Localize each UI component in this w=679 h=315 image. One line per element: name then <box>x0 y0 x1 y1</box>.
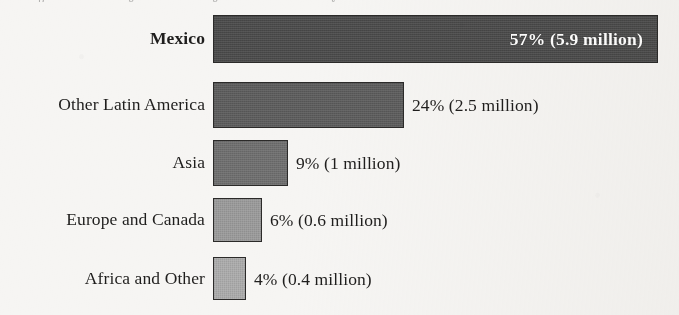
bar-value-label: 9% (1 million) <box>296 153 400 174</box>
bar-rect <box>213 257 246 300</box>
bar-halftone-texture <box>214 199 261 241</box>
bar-category-label: Asia <box>0 154 205 172</box>
bar-row: Other Latin America24% (2.5 million) <box>0 82 679 128</box>
bar-row: Asia9% (1 million) <box>0 140 679 186</box>
bar-category-label: Mexico <box>0 30 205 48</box>
bar-row: Europe and Canada6% (0.6 million) <box>0 198 679 242</box>
bar-rect: 57% (5.9 million) <box>213 15 658 63</box>
horizontal-bar-chart: Mexico57% (5.9 million)Other Latin Ameri… <box>0 0 679 315</box>
bar-value-label: 6% (0.6 million) <box>270 210 388 231</box>
bar-rect <box>213 198 262 242</box>
bar-value-label: 57% (5.9 million) <box>510 29 643 50</box>
bar-category-label: Europe and Canada <box>0 211 205 229</box>
bar-category-label: Africa and Other <box>0 270 205 288</box>
bar-category-label: Other Latin America <box>0 96 205 114</box>
bar-value-label: 24% (2.5 million) <box>412 95 539 116</box>
bar-rect <box>213 140 288 186</box>
bar-halftone-texture <box>214 83 403 127</box>
bar-row: Africa and Other4% (0.4 million) <box>0 257 679 300</box>
bar-halftone-texture <box>214 141 287 185</box>
bar-row: Mexico57% (5.9 million) <box>0 15 679 63</box>
bar-rect <box>213 82 404 128</box>
bar-halftone-texture <box>214 258 245 299</box>
bar-value-label: 4% (0.4 million) <box>254 268 372 289</box>
